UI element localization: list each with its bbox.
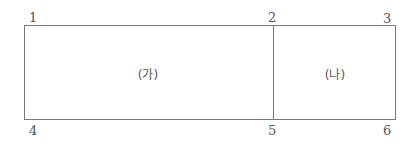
point-label-3: 3 xyxy=(383,12,391,25)
point-label-2: 2 xyxy=(268,11,276,24)
region-label-na: (나) xyxy=(325,65,345,82)
point-label-5: 5 xyxy=(268,124,276,137)
point-label-4: 4 xyxy=(29,124,37,137)
divider-line-2-5 xyxy=(273,25,274,120)
region-label-ga: (가) xyxy=(138,65,158,82)
point-label-1: 1 xyxy=(29,11,37,24)
point-label-6: 6 xyxy=(383,124,391,137)
